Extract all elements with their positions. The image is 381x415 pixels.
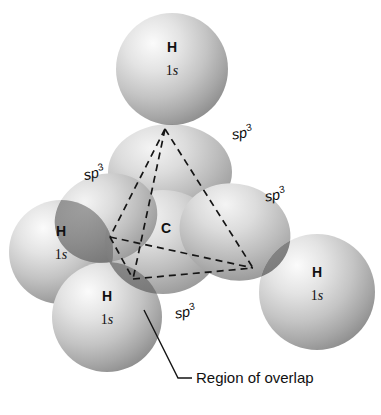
sp3-label-top-right: sp3 xyxy=(230,121,254,142)
diagram-canvas: C H 1s H 1s H 1s H 1s sp3 sp3 xyxy=(0,0,381,415)
sp3-label-right: sp3 xyxy=(263,183,287,204)
sp3-label-bottom: sp3 xyxy=(173,300,197,321)
callout-label: Region of overlap xyxy=(196,369,314,386)
hydrogen-label-right: H xyxy=(312,264,322,280)
carbon-label: C xyxy=(161,220,171,236)
hydrogen-label-bottom-left: H xyxy=(102,288,112,304)
hydrogen-shell-right: 1s xyxy=(311,288,324,303)
hydrogen-label-top: H xyxy=(167,39,177,55)
methane-sp3-diagram: C H 1s H 1s H 1s H 1s sp3 sp3 xyxy=(0,0,381,415)
hydrogen-shell-top: 1s xyxy=(166,63,179,78)
hydrogen-shell-left: 1s xyxy=(55,247,68,262)
hydrogen-label-left: H xyxy=(56,223,66,239)
hydrogen-shell-bottom-left: 1s xyxy=(101,312,114,327)
